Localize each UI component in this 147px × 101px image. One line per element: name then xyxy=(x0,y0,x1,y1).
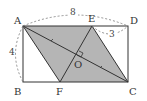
label-length-ab: 4 xyxy=(9,47,15,57)
label-point-a: A xyxy=(13,15,22,26)
label-point-f: F xyxy=(56,86,63,97)
label-length-ad: 8 xyxy=(70,7,76,17)
geometry-diagram: 8 4 3 A E D B F C O xyxy=(0,0,147,101)
label-point-b: B xyxy=(14,86,21,97)
label-point-e: E xyxy=(88,13,95,24)
label-point-c: C xyxy=(129,86,137,97)
label-point-o: O xyxy=(74,59,82,70)
label-length-ed: 3 xyxy=(109,29,115,39)
label-point-d: D xyxy=(130,15,138,26)
dimension-arc-ab xyxy=(16,26,24,82)
